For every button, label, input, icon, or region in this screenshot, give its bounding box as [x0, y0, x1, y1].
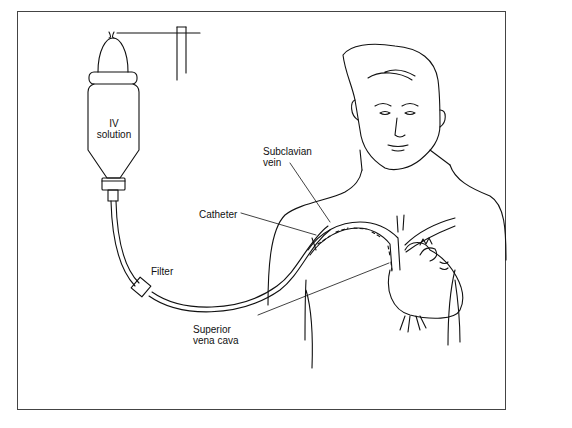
iv-solution-label: IV solution [88, 118, 140, 140]
iv-solution-label-line1: IV [88, 118, 140, 129]
subclavian-vein-label: Subclavian vein [263, 146, 312, 168]
diagram-artwork [0, 0, 572, 428]
subclavian-leader [290, 163, 330, 222]
head [343, 44, 450, 170]
superior-vena-cava-label: Superior vena cava [193, 324, 239, 346]
subclavian-label-line2: vein [263, 157, 312, 168]
svc-leader [258, 263, 389, 315]
iv-bottle [88, 32, 139, 201]
torso-outline [268, 165, 506, 368]
catheter-leader [241, 213, 316, 235]
filter-icon [131, 277, 151, 297]
catheter-label: Catheter [199, 209, 237, 220]
svc-label-line1: Superior [193, 324, 239, 335]
filter-label: Filter [151, 266, 173, 277]
svc-label-line2: vena cava [193, 335, 239, 346]
subclavian-vein [308, 215, 455, 272]
iv-solution-label-line2: solution [88, 129, 140, 140]
subclavian-label-line1: Subclavian [263, 146, 312, 157]
